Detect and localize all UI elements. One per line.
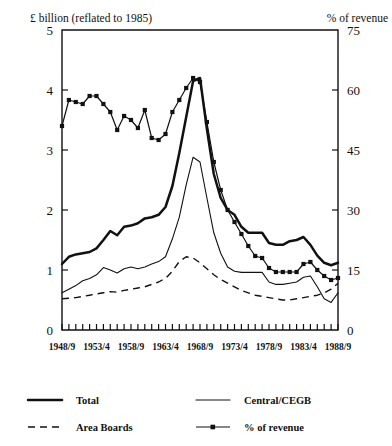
chart-legend: TotalCentral/CEGBArea Boards% of revenue [28, 395, 311, 433]
legend-total: Total [28, 395, 99, 406]
chart-plot-area [60, 76, 340, 303]
series-marker [108, 110, 112, 114]
series-marker [157, 138, 161, 142]
series-marker [94, 94, 98, 98]
x-tick-label: 1988/9 [325, 342, 352, 352]
series-marker [322, 274, 326, 278]
legend-pct-of-revenue-label: % of revenue [244, 422, 304, 433]
series-marker [136, 126, 140, 130]
series-marker [184, 86, 188, 90]
x-tick-label: 1948/9 [49, 342, 76, 352]
series-marker [115, 128, 119, 132]
series-marker [101, 102, 105, 106]
series-marker [170, 110, 174, 114]
series-marker [260, 256, 264, 260]
series-marker [212, 160, 216, 164]
series-marker [308, 260, 312, 264]
series-marker [336, 276, 340, 280]
y2-tick-label: 75 [347, 23, 360, 38]
series-marker [295, 270, 299, 274]
series-marker [301, 262, 305, 266]
x-tick-label: 1958/9 [118, 342, 145, 352]
series-marker [143, 108, 147, 112]
legend-area-boards: Area Boards [28, 422, 133, 433]
x-tick-label: 1983/4 [290, 342, 317, 352]
series-marker [315, 268, 319, 272]
x-tick-label: 1978/9 [256, 342, 283, 352]
y2-tick-label: 45 [347, 143, 360, 158]
series-line-central-cegb [62, 157, 338, 302]
x-tick-label: 1973/4 [221, 342, 248, 352]
series-marker [198, 80, 202, 84]
x-tick-label: 1953/4 [83, 342, 110, 352]
series-line-area-boards [62, 257, 338, 300]
series-marker [81, 102, 85, 106]
x-tick-label: 1963/4 [152, 342, 179, 352]
series-marker [163, 132, 167, 136]
series-line-of-revenue [62, 78, 338, 280]
y-tick-label: 2 [47, 203, 54, 218]
y-tick-label: 4 [47, 83, 54, 98]
series-marker [226, 208, 230, 212]
line-chart-svg: £ billion (reflated to 1985) % of revenu… [0, 0, 392, 446]
legend-area-boards-label: Area Boards [76, 422, 133, 433]
y-tick-label: 1 [47, 263, 54, 278]
series-marker [129, 118, 133, 122]
series-marker [232, 220, 236, 224]
series-marker [177, 98, 181, 102]
series-marker [239, 232, 243, 236]
series-marker [288, 270, 292, 274]
y-tick-label: 3 [47, 143, 54, 158]
x-tick-label: 1968/9 [187, 342, 214, 352]
series-marker [219, 188, 223, 192]
series-marker [122, 114, 126, 118]
legend-pct-of-revenue: % of revenue [196, 422, 304, 433]
chart-axes: 012345015304560751948/91953/41958/91963/… [47, 23, 361, 352]
series-marker [67, 98, 71, 102]
y2-tick-label: 0 [347, 323, 354, 338]
y-tick-label: 0 [47, 323, 54, 338]
legend-central-cegb: Central/CEGB [196, 395, 311, 406]
series-marker [150, 136, 154, 140]
y2-tick-label: 60 [347, 83, 360, 98]
series-marker [205, 120, 209, 124]
legend-total-label: Total [76, 395, 99, 406]
series-marker [274, 270, 278, 274]
chart-figure: £ billion (reflated to 1985) % of revenu… [0, 0, 392, 446]
series-marker [74, 100, 78, 104]
series-marker [60, 124, 64, 128]
series-marker [246, 244, 250, 248]
series-marker [267, 266, 271, 270]
series-marker [281, 270, 285, 274]
series-marker [253, 254, 257, 258]
series-marker [329, 278, 333, 282]
y2-tick-label: 15 [347, 263, 360, 278]
legend-central-cegb-label: Central/CEGB [244, 395, 311, 406]
series-marker [191, 76, 195, 80]
series-marker [88, 94, 92, 98]
y-tick-label: 5 [47, 23, 54, 38]
y2-tick-label: 30 [347, 203, 360, 218]
